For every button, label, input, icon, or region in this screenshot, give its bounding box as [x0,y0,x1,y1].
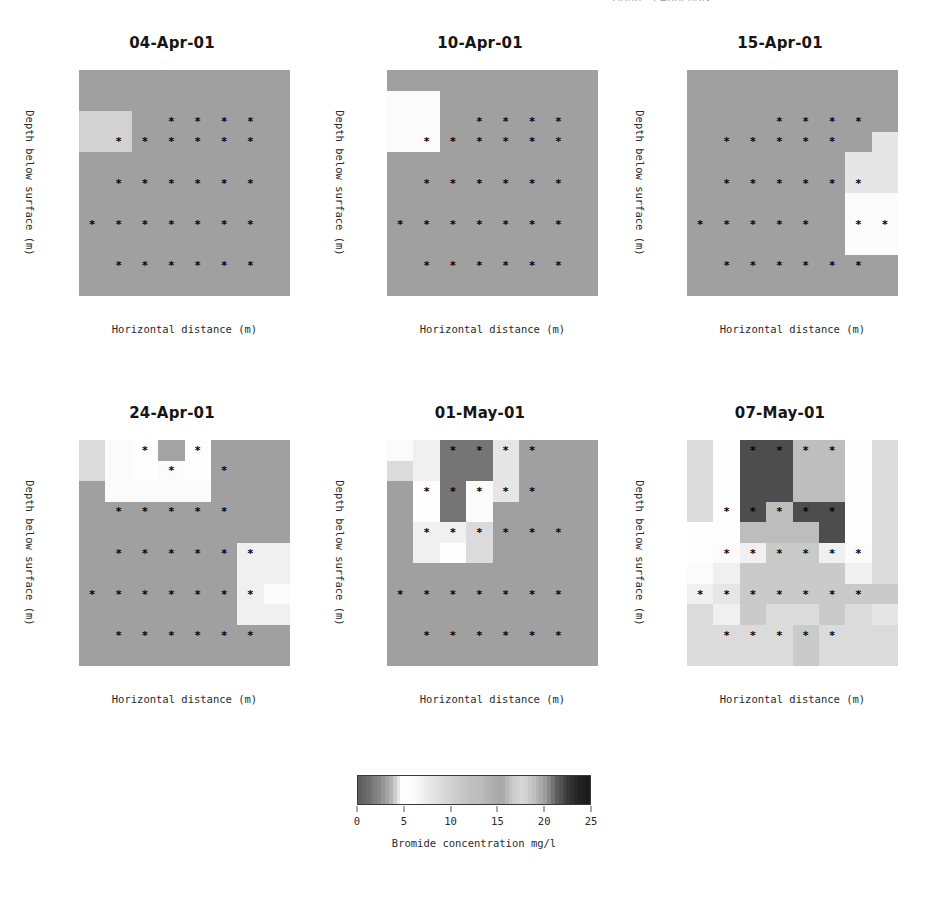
heatmap-cell [264,234,290,255]
heatmap-cell [493,111,519,132]
heatmap-cell [237,91,263,112]
heatmap-cell [872,584,898,605]
heatmap-cell [493,502,519,523]
heatmap-cell [237,132,263,153]
y-axis-label: Depth below surface (m) [20,440,40,666]
heatmap-plot-area: ****************************0.51.01.52.0… [387,440,598,666]
heatmap-cell [545,214,571,235]
x-axis-label: Horizontal distance (m) [387,323,598,335]
heatmap-cell [545,91,571,112]
heatmap-cell [440,604,466,625]
heatmap-cell [105,625,131,646]
heatmap-cell [79,214,105,235]
heatmap-cell [466,152,492,173]
heatmap-cell [740,625,766,646]
heatmap-cell [264,132,290,153]
heatmap-cell [132,91,158,112]
heatmap-cell [158,584,184,605]
heatmap-cell [545,625,571,646]
heatmap-cell [211,255,237,276]
heatmap-cell [264,502,290,523]
heatmap-cell [519,645,545,666]
heatmap-cell [793,255,819,276]
heatmap-cell [440,214,466,235]
heatmap-cell [79,70,105,91]
heatmap-cell [79,255,105,276]
heatmap-cell [237,625,263,646]
heatmap-cell [819,173,845,194]
heatmap-cell [493,275,519,296]
heatmap-cell [466,70,492,91]
heatmap-plot-area: *****************************0.51.01.52.… [387,70,598,296]
heatmap-cell [845,543,871,564]
heatmap-cell [132,563,158,584]
heatmap-cell [572,70,598,91]
heatmap-cell [793,152,819,173]
heatmap-cell [237,173,263,194]
heatmap-cell [264,193,290,214]
heatmap-cell [440,152,466,173]
heatmap-cell [766,132,792,153]
heatmap-cell [845,275,871,296]
heatmap-cell [105,193,131,214]
heatmap-cell [793,193,819,214]
heatmap-cell [440,625,466,646]
heatmap-cell [793,214,819,235]
panel-title: 10-Apr-01 [330,34,630,52]
heatmap-cell [185,543,211,564]
heatmap-cell [105,563,131,584]
heatmap-cell [211,625,237,646]
heatmap-cell [158,563,184,584]
heatmap-cell [413,132,439,153]
colorbar-legend: 0510152025 Bromide concentration mg/l [357,775,591,875]
heatmap-cell [264,543,290,564]
heatmap-cell [413,70,439,91]
heatmap-cell [132,234,158,255]
heatmap-cell [713,214,739,235]
heatmap-cell [493,91,519,112]
heatmap-cell [440,481,466,502]
heatmap-cell [132,440,158,461]
heatmap-cell [845,563,871,584]
heatmap-cell [572,522,598,543]
heatmap-cell [572,214,598,235]
heatmap-cell [79,584,105,605]
heatmap-cell [237,214,263,235]
colorbar-caption: Bromide concentration mg/l [297,837,651,849]
heatmap-cell [211,502,237,523]
panel-10-apr-01: 10-Apr-01*****************************0.… [330,30,630,360]
heatmap-cell [872,522,898,543]
colorbar-tick-mark [497,806,498,812]
heatmap-cell [413,481,439,502]
heatmap-cell [819,461,845,482]
heatmap-cell [572,604,598,625]
heatmap-cell [519,70,545,91]
heatmap-cell [819,275,845,296]
heatmap-cell [105,91,131,112]
heatmap-cell [185,522,211,543]
heatmap-cell [79,604,105,625]
heatmap-cell [687,152,713,173]
heatmap-cell [740,214,766,235]
heatmap-cell [793,440,819,461]
heatmap-cell [211,173,237,194]
heatmap-cell [466,255,492,276]
heatmap-cell [158,440,184,461]
heatmap-cell [158,214,184,235]
heatmap-cell [493,132,519,153]
heatmap-cell [766,604,792,625]
heatmap-cell [158,461,184,482]
heatmap-cell [740,152,766,173]
heatmap-cell [493,214,519,235]
heatmap-cell [572,152,598,173]
heatmap-cell [264,522,290,543]
heatmap-cell [105,522,131,543]
heatmap-cell [572,563,598,584]
heatmap-cell [132,481,158,502]
heatmap-cell [793,132,819,153]
heatmap-cell [264,70,290,91]
heatmap-cell [545,255,571,276]
heatmap-cell [819,440,845,461]
heatmap-cell [766,481,792,502]
heatmap-cell [793,645,819,666]
